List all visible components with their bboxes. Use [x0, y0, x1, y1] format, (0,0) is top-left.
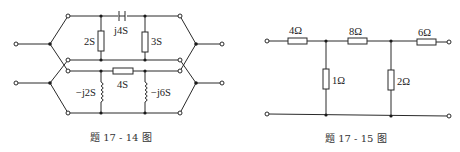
resistor-2ohm	[388, 70, 394, 90]
label-8ohm: 8Ω	[349, 26, 362, 37]
figure-17-14: 2S j4S 3S 4S −j2S −j6S 题 17 - 14 图	[14, 11, 224, 143]
terminal	[265, 39, 269, 43]
resistor-2S	[98, 31, 104, 51]
terminal	[265, 112, 269, 116]
label-neg-j2S: −j2S	[76, 87, 96, 98]
resistor-6ohm	[417, 39, 436, 45]
label-4ohm: 4Ω	[289, 25, 302, 36]
label-j4S: j4S	[113, 25, 128, 36]
terminal	[14, 42, 18, 46]
terminal	[447, 40, 451, 44]
inductor-j6S	[145, 82, 147, 102]
caption-17-14: 题 17 - 14 图	[90, 132, 152, 143]
resistor-4ohm	[288, 38, 307, 44]
label-3S: 3S	[151, 36, 162, 47]
terminal	[447, 114, 451, 118]
figure-17-15: 4Ω 8Ω 6Ω 1Ω 2Ω 题 17 - 15 图	[265, 25, 451, 144]
label-6ohm: 6Ω	[418, 27, 431, 38]
label-4S: 4S	[117, 79, 128, 90]
resistor-3S	[142, 32, 148, 52]
resistor-8ohm	[348, 38, 367, 44]
terminal	[220, 42, 224, 46]
label-2ohm: 2Ω	[397, 76, 410, 87]
resistor-4S	[113, 68, 133, 74]
label-2S: 2S	[84, 36, 95, 47]
terminal	[220, 81, 224, 85]
resistor-1ohm	[323, 69, 329, 89]
label-1ohm: 1Ω	[332, 75, 345, 86]
terminal	[14, 81, 18, 85]
label-neg-j6S: −j6S	[151, 87, 171, 98]
caption-17-15: 题 17 - 15 图	[325, 133, 387, 144]
inductor-j2S	[101, 82, 103, 102]
circuit-diagrams: 2S j4S 3S 4S −j2S −j6S 题 17 - 14 图	[0, 0, 460, 152]
